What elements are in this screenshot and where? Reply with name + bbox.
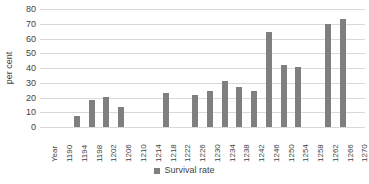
bar[interactable] [103,97,109,127]
y-axis-title: per cent [2,18,16,118]
x-axis-tick-1202: 1202 [99,128,114,162]
bar-slot-Year [40,9,55,127]
bar-slot-1234 [217,9,232,127]
bar-slot-1198 [84,9,99,127]
bar[interactable] [325,24,331,127]
x-axis-tick-1250: 1250 [276,128,291,162]
bar-series [40,9,365,127]
y-axis-tick-30: 30 [16,78,36,87]
bar[interactable] [266,32,272,127]
x-axis-tick-1198: 1198 [84,128,99,162]
bar[interactable] [340,19,346,127]
bar[interactable] [74,116,80,127]
y-axis-tick-10: 10 [16,108,36,117]
bar[interactable] [295,67,301,127]
bar-slot-1246 [261,9,276,127]
bar[interactable] [222,81,228,127]
plot-area [40,9,365,127]
x-axis-tick-1190: 1190 [55,128,70,162]
x-axis-tick-1210: 1210 [129,128,144,162]
bar-slot-1250 [276,9,291,127]
x-axis-tick-1194: 1194 [70,128,85,162]
bar[interactable] [207,91,213,127]
x-axis-tick-1262: 1262 [321,128,336,162]
bar-chart: per cent 80706050403020100 Year119011941… [0,0,369,184]
bar-slot-1266 [335,9,350,127]
x-axis-tick-1218: 1218 [158,128,173,162]
x-axis-tick-1270: 1270 [350,128,365,162]
bar[interactable] [89,100,95,127]
bar-slot-1218 [158,9,173,127]
x-axis-tick-1222: 1222 [173,128,188,162]
bar-slot-1258 [306,9,321,127]
bar-slot-1206 [114,9,129,127]
x-axis-tick-Year: Year [40,128,55,162]
x-axis-tick-label: 1270 [361,144,369,162]
bar-slot-1270 [350,9,365,127]
y-axis-tick-50: 50 [16,49,36,58]
x-axis-tick-1258: 1258 [306,128,321,162]
bar-slot-1226 [188,9,203,127]
y-axis-tick-80: 80 [16,5,36,14]
x-axis-tick-labels: Year119011941198120212061210121412181222… [40,128,365,162]
y-axis-tick-60: 60 [16,34,36,43]
legend-label: Survival rate [164,166,214,175]
bar-slot-1202 [99,9,114,127]
bar[interactable] [192,95,198,127]
y-axis-tick-labels: 80706050403020100 [16,9,36,127]
bar-slot-1190 [55,9,70,127]
bar-slot-1194 [70,9,85,127]
chart-legend: Survival rate [0,166,369,175]
x-axis-tick-1214: 1214 [143,128,158,162]
bar-slot-1238 [232,9,247,127]
bar[interactable] [236,87,242,127]
bar[interactable] [251,91,257,127]
legend-swatch-icon [154,168,160,174]
x-axis-tick-1230: 1230 [202,128,217,162]
bar-slot-1230 [202,9,217,127]
bar-slot-1262 [321,9,336,127]
x-axis-tick-1226: 1226 [188,128,203,162]
x-axis-tick-1246: 1246 [261,128,276,162]
bar[interactable] [118,107,124,127]
y-axis-tick-40: 40 [16,64,36,73]
bar-slot-1222 [173,9,188,127]
x-axis-tick-1242: 1242 [247,128,262,162]
bar-slot-1214 [143,9,158,127]
x-axis-tick-1234: 1234 [217,128,232,162]
bar-slot-1210 [129,9,144,127]
y-axis-tick-70: 70 [16,19,36,28]
x-axis-tick-1206: 1206 [114,128,129,162]
x-axis-tick-1266: 1266 [335,128,350,162]
y-axis-tick-0: 0 [16,123,36,132]
y-axis-tick-20: 20 [16,93,36,102]
bar-slot-1254 [291,9,306,127]
bar[interactable] [163,93,169,127]
y-axis-title-text: per cent [4,52,14,85]
bar[interactable] [281,65,287,127]
bar-slot-1242 [247,9,262,127]
x-axis-tick-1238: 1238 [232,128,247,162]
x-axis-tick-1254: 1254 [291,128,306,162]
